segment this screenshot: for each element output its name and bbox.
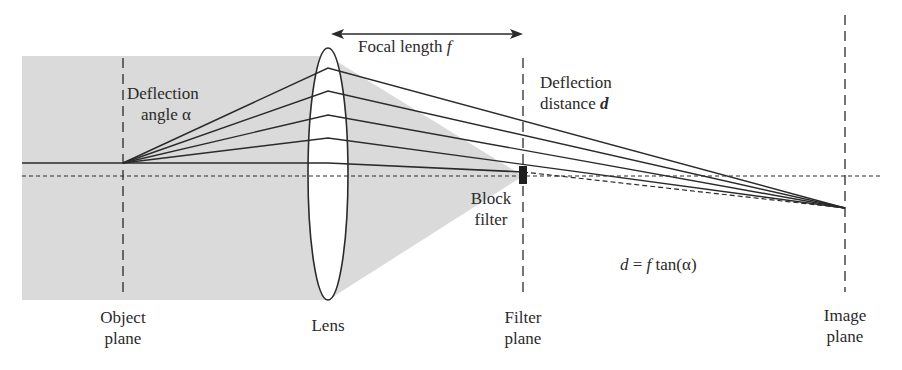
deflection-angle-line2: angle α: [127, 104, 199, 125]
filter-plane-label: Filter plane: [493, 307, 553, 349]
block-filter-line2: filter: [466, 209, 516, 230]
block-filter: [519, 166, 527, 184]
image-plane-line1: Image: [810, 305, 880, 326]
lens-text: Lens: [298, 315, 358, 336]
deflection-angle-line1: Deflection: [127, 83, 199, 104]
deflection-distance-label: Deflection distance d: [540, 72, 612, 114]
image-plane-line2: plane: [810, 326, 880, 347]
filter-plane-line1: Filter: [493, 307, 553, 328]
equation-d: d: [620, 255, 629, 274]
focal-length-text: Focal length: [358, 37, 443, 56]
lens-label: Lens: [298, 315, 358, 336]
focal-length-label: Focal length f: [358, 36, 452, 57]
equation-equals: =: [629, 255, 647, 274]
filter-plane-line2: plane: [493, 328, 553, 349]
equation: d = f tan(α): [620, 254, 697, 275]
equation-tan: tan(α): [651, 255, 696, 274]
lens-shape: [308, 48, 348, 300]
object-plane-line2: plane: [88, 328, 158, 349]
block-filter-line1: Block: [466, 188, 516, 209]
image-plane-label: Image plane: [810, 305, 880, 347]
blocked-ray: [523, 172, 845, 208]
illumination-region: [22, 56, 523, 300]
deflection-distance-line1: Deflection: [540, 72, 612, 93]
deflection-distance-line2: distance: [540, 94, 596, 113]
deflection-symbol: d: [600, 94, 609, 113]
object-plane-line1: Object: [88, 307, 158, 328]
deflection-angle-label: Deflection angle α: [127, 83, 199, 125]
block-filter-label: Block filter: [466, 188, 516, 230]
focal-symbol: f: [447, 37, 452, 56]
object-plane-label: Object plane: [88, 307, 158, 349]
